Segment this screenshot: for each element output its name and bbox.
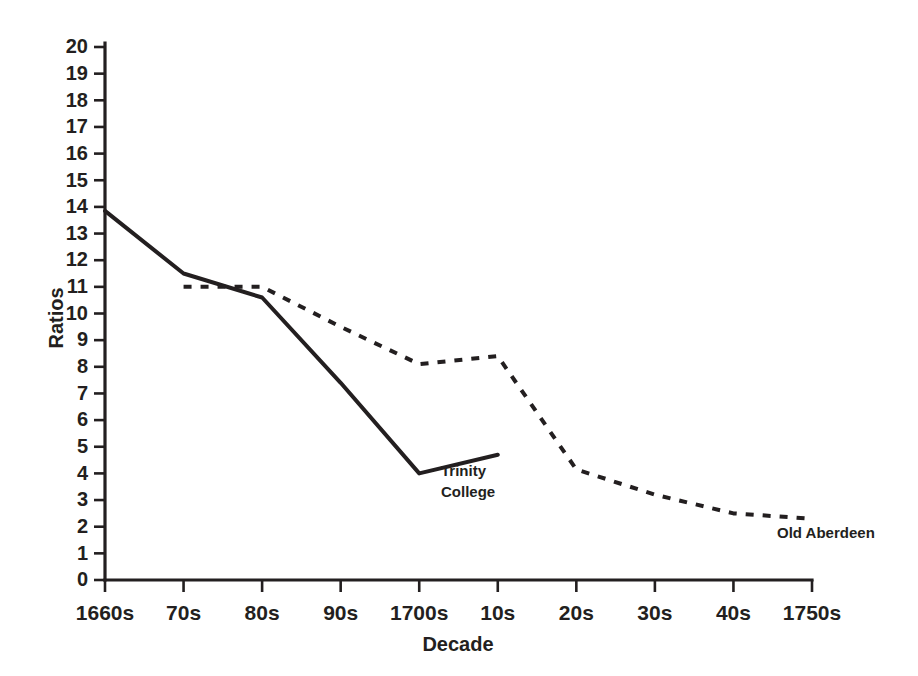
y-axis-tick-marks: [94, 47, 105, 580]
y-tick-label: 5: [77, 435, 88, 457]
y-tick-label: 1: [77, 542, 88, 564]
y-tick-label: 9: [77, 328, 88, 350]
y-tick-label: 11: [67, 275, 88, 297]
line-chart-canvas: 01234567891011121314151617181920 1660s70…: [0, 0, 918, 676]
x-tick-label: 1700s: [390, 601, 448, 624]
annotation-trinity-line1: Trinity: [441, 462, 487, 479]
y-tick-label: 8: [77, 355, 88, 377]
y-tick-label: 6: [77, 408, 88, 430]
x-tick-label: 1750s: [783, 601, 841, 624]
y-tick-label: 13: [66, 222, 88, 244]
y-tick-label: 4: [77, 462, 89, 484]
y-axis-title: Ratios: [45, 287, 67, 348]
series-line-trinity-college: [105, 211, 498, 474]
series-line-old-aberdeen: [184, 287, 812, 519]
y-tick-label: 15: [66, 169, 88, 191]
x-axis-tick-marks: [105, 580, 812, 592]
y-tick-label: 7: [77, 382, 88, 404]
chart-figure: 01234567891011121314151617181920 1660s70…: [0, 0, 918, 676]
x-tick-label: 10s: [480, 601, 515, 624]
annotation-trinity-line2: College: [441, 483, 495, 500]
y-tick-label: 0: [77, 568, 88, 590]
x-tick-label: 80s: [245, 601, 280, 624]
y-tick-label: 17: [66, 115, 88, 137]
y-tick-label: 3: [77, 488, 88, 510]
y-tick-label: 18: [66, 89, 88, 111]
x-axis-title: Decade: [422, 633, 493, 655]
annotation-old-aberdeen: Old Aberdeen: [777, 524, 875, 541]
x-axis-tick-labels: 1660s70s80s90s1700s10s20s30s40s1750s: [76, 601, 841, 624]
x-tick-label: 90s: [323, 601, 358, 624]
x-tick-label: 20s: [559, 601, 594, 624]
y-tick-label: 10: [66, 302, 88, 324]
y-tick-label: 12: [66, 248, 88, 270]
x-tick-label: 1660s: [76, 601, 134, 624]
y-tick-label: 16: [66, 142, 88, 164]
x-tick-label: 40s: [716, 601, 751, 624]
y-tick-label: 20: [66, 35, 88, 57]
x-tick-label: 70s: [166, 601, 201, 624]
y-tick-label: 14: [66, 195, 89, 217]
y-tick-label: 2: [77, 515, 88, 537]
y-tick-label: 19: [66, 62, 88, 84]
x-tick-label: 30s: [637, 601, 672, 624]
y-axis-tick-labels: 01234567891011121314151617181920: [66, 35, 89, 590]
